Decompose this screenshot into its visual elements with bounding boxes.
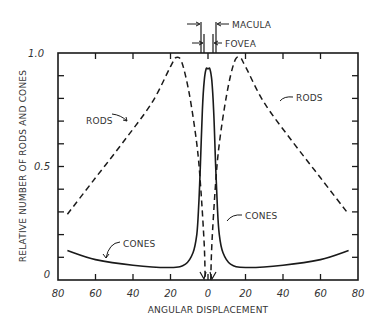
cones-label-right: CONES bbox=[245, 211, 278, 221]
x-axis-title: ANGULAR DISPLACEMENT bbox=[148, 305, 269, 315]
x-tick-label: 60 bbox=[314, 288, 327, 299]
rods-label-right: RODS bbox=[296, 93, 323, 103]
rods-label-left: RODS bbox=[86, 116, 113, 126]
y-tick-0: 0 bbox=[44, 269, 50, 280]
retina-density-chart: 80604020020406080 1.0 0.5 0 ANGULAR DISP… bbox=[0, 0, 380, 330]
x-tick-label: 20 bbox=[239, 288, 252, 299]
cones-label-left: CONES bbox=[123, 239, 156, 249]
rods-line bbox=[67, 57, 348, 280]
y-tick-1.0: 1.0 bbox=[28, 48, 44, 59]
macula-label: MACULA bbox=[232, 20, 272, 30]
x-tick-label: 0 bbox=[205, 288, 211, 299]
cones-right-pointer-icon bbox=[227, 215, 242, 221]
x-tick-label: 20 bbox=[164, 288, 177, 299]
y-tick-0.5: 0.5 bbox=[34, 161, 50, 172]
x-tick-label: 80 bbox=[352, 288, 365, 299]
x-tick-labels: 80604020020406080 bbox=[52, 288, 365, 299]
x-tick-label: 60 bbox=[89, 288, 102, 299]
x-tick-label: 80 bbox=[52, 288, 65, 299]
fovea-label: FOVEA bbox=[225, 39, 257, 49]
y-axis-title: RELATIVE NUMBER OF RODS AND CONES bbox=[18, 70, 28, 262]
plot-frame bbox=[58, 53, 358, 280]
rods-right-pointer-icon bbox=[280, 97, 293, 101]
axis-ticks bbox=[58, 53, 358, 280]
x-tick-label: 40 bbox=[277, 288, 290, 299]
rods-left-arrowhead-icon bbox=[200, 272, 206, 279]
x-tick-label: 40 bbox=[127, 288, 140, 299]
